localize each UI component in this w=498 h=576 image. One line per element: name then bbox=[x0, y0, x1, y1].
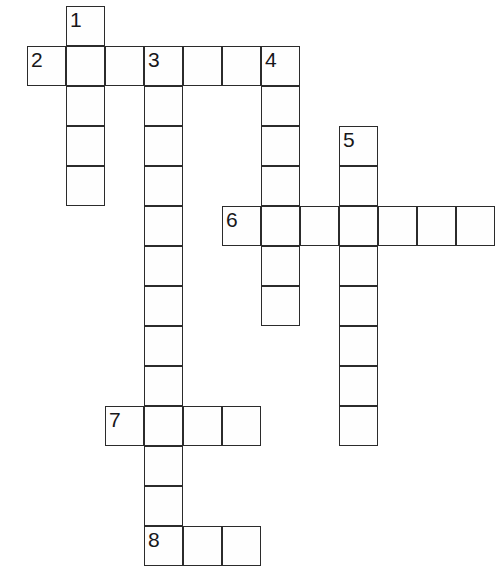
crossword-cell[interactable] bbox=[144, 406, 183, 446]
crossword-cell-numbered[interactable]: 4 bbox=[261, 46, 300, 86]
crossword-cell[interactable] bbox=[66, 46, 105, 86]
crossword-cell[interactable] bbox=[261, 286, 300, 326]
crossword-cell[interactable] bbox=[339, 166, 378, 206]
crossword-cell[interactable] bbox=[144, 286, 183, 326]
crossword-cell[interactable] bbox=[144, 166, 183, 206]
crossword-cell-numbered[interactable]: 2 bbox=[27, 46, 66, 86]
crossword-cell-numbered[interactable]: 5 bbox=[339, 126, 378, 166]
cell-number-2: 2 bbox=[31, 47, 42, 73]
crossword-cell-numbered[interactable]: 6 bbox=[222, 206, 261, 246]
crossword-cell[interactable] bbox=[261, 86, 300, 126]
crossword-cell-numbered[interactable]: 1 bbox=[66, 6, 105, 46]
crossword-cell[interactable] bbox=[417, 206, 456, 246]
crossword-cell[interactable] bbox=[378, 206, 417, 246]
crossword-cell[interactable] bbox=[183, 526, 222, 566]
cell-number-3: 3 bbox=[148, 47, 159, 73]
crossword-cell[interactable] bbox=[144, 86, 183, 126]
crossword-cell[interactable] bbox=[144, 366, 183, 406]
crossword-cell[interactable] bbox=[144, 446, 183, 486]
crossword-cell[interactable] bbox=[66, 166, 105, 206]
crossword-cell[interactable] bbox=[339, 326, 378, 366]
cell-number-6: 6 bbox=[226, 207, 237, 233]
crossword-cell[interactable] bbox=[456, 206, 495, 246]
crossword-cell[interactable] bbox=[339, 366, 378, 406]
crossword-cell[interactable] bbox=[144, 326, 183, 366]
crossword-cell[interactable] bbox=[339, 406, 378, 446]
crossword-cell[interactable] bbox=[144, 206, 183, 246]
crossword-cell-numbered[interactable]: 7 bbox=[105, 406, 144, 446]
crossword-cell[interactable] bbox=[339, 246, 378, 286]
crossword-cell[interactable] bbox=[105, 46, 144, 86]
crossword-cell[interactable] bbox=[183, 46, 222, 86]
crossword-cell-numbered[interactable]: 3 bbox=[144, 46, 183, 86]
cell-number-8: 8 bbox=[148, 527, 159, 553]
crossword-cell[interactable] bbox=[66, 126, 105, 166]
crossword-cell[interactable] bbox=[261, 246, 300, 286]
crossword-cell[interactable] bbox=[261, 126, 300, 166]
crossword-cell[interactable] bbox=[300, 206, 339, 246]
crossword-cell[interactable] bbox=[339, 206, 378, 246]
crossword-cell[interactable] bbox=[183, 406, 222, 446]
crossword-cell[interactable] bbox=[222, 46, 261, 86]
crossword-cell[interactable] bbox=[144, 246, 183, 286]
cell-number-4: 4 bbox=[265, 47, 276, 73]
crossword-cell[interactable] bbox=[222, 526, 261, 566]
cell-number-7: 7 bbox=[109, 407, 120, 433]
crossword-grid[interactable]: 12345678 bbox=[0, 0, 498, 576]
crossword-cell[interactable] bbox=[144, 126, 183, 166]
crossword-cell[interactable] bbox=[339, 286, 378, 326]
crossword-cell[interactable] bbox=[261, 166, 300, 206]
cell-number-5: 5 bbox=[343, 127, 354, 153]
crossword-cell-numbered[interactable]: 8 bbox=[144, 526, 183, 566]
crossword-cell[interactable] bbox=[261, 206, 300, 246]
crossword-cell[interactable] bbox=[222, 406, 261, 446]
crossword-cell[interactable] bbox=[144, 486, 183, 526]
crossword-puzzle: 12345678 bbox=[0, 0, 498, 576]
cell-number-1: 1 bbox=[70, 7, 81, 33]
crossword-cell[interactable] bbox=[66, 86, 105, 126]
